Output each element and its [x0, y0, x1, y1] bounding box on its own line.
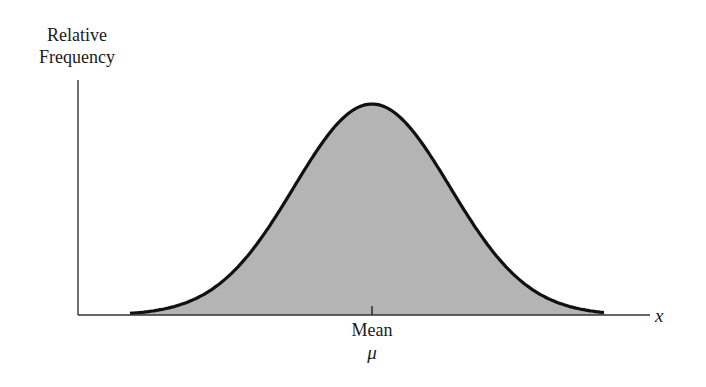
mean-label: Mean: [342, 320, 402, 341]
mu-symbol: μ: [342, 342, 402, 364]
x-axis-label: x: [655, 305, 663, 327]
curve-area: [130, 104, 605, 315]
